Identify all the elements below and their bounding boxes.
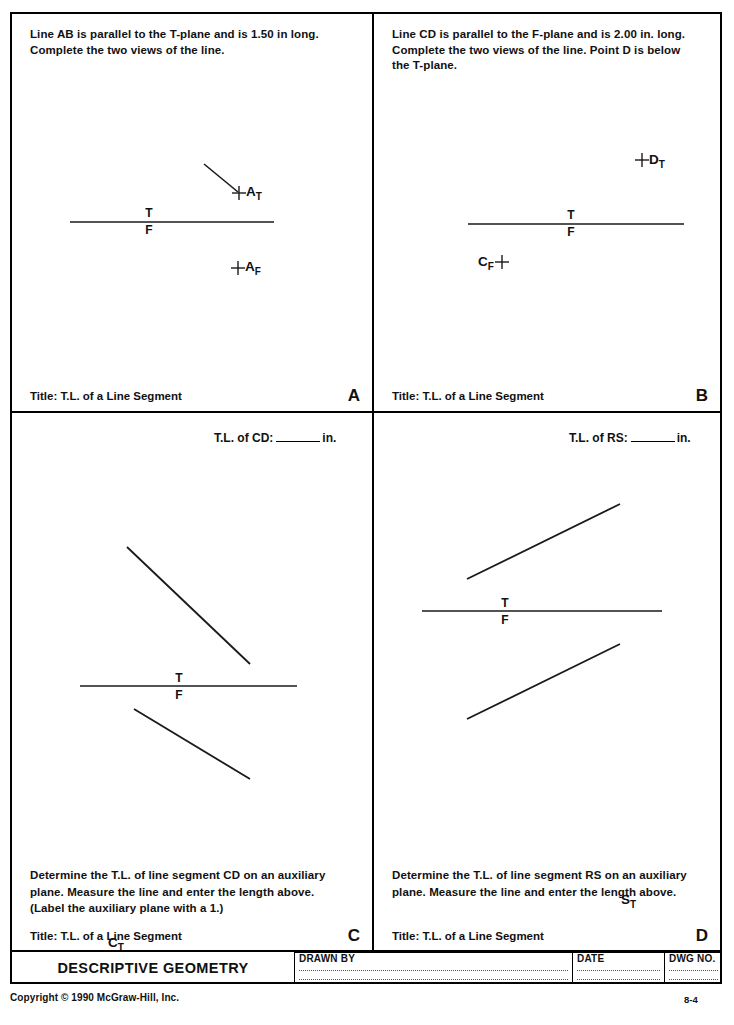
panel-d-letter: D [696, 926, 708, 946]
fold-label-t: T [172, 672, 186, 684]
date-label: DATE [577, 953, 604, 964]
fold-label-f: F [142, 224, 156, 236]
title-block-date-cell[interactable]: DATE [572, 952, 664, 984]
line-rs-front-view [467, 644, 620, 719]
dwg-no-rule-2 [669, 979, 718, 980]
dwg-no-rule-1 [669, 970, 718, 971]
panel-a-title-strip: Title: T.L. of a Line Segment A [12, 386, 374, 412]
dwg-no-label: DWG NO. [669, 953, 715, 964]
point-label-af: AF [245, 260, 261, 277]
title-block: DESCRIPTIVE GEOMETRY DRAWN BY DATE DWG N… [12, 952, 722, 984]
drawn-by-label: DRAWN BY [299, 953, 355, 964]
title-block-drawn-by-cell[interactable]: DRAWN BY [294, 952, 572, 984]
fold-label-f: F [498, 614, 512, 626]
panel-c-answer-suffix: in. [322, 431, 336, 445]
panel-b-title-strip: Title: T.L. of a Line Segment B [374, 386, 722, 412]
drawing-sheet: Line AB is parallel to the T-plane and i… [10, 12, 722, 984]
panel-b-title: Title: T.L. of a Line Segment [392, 390, 544, 402]
point-label-cf: CF [478, 255, 494, 272]
panel-d-title: Title: T.L. of a Line Segment [392, 930, 544, 942]
title-block-dwg-no-cell[interactable]: DWG NO. [664, 952, 722, 984]
panel-d: T.L. of RS: in. T F RT ST RF SF Determin… [374, 412, 722, 952]
panel-a-title: Title: T.L. of a Line Segment [30, 390, 182, 402]
fold-label-f: F [564, 226, 578, 238]
fold-label-t: T [142, 207, 156, 219]
point-label-dt: DT [649, 153, 665, 170]
line-cd-front-view [134, 709, 250, 779]
page-number: 8-4 [684, 994, 698, 1005]
panel-a-prompt: Line AB is parallel to the T-plane and i… [30, 27, 360, 58]
panel-c-answer-prefix: T.L. of CD: [214, 431, 273, 445]
drawn-by-rule-2 [299, 979, 568, 980]
panel-divider-vertical-bottom [372, 412, 374, 952]
panel-a-letter: A [348, 386, 360, 406]
panel-b-letter: B [696, 386, 708, 406]
line-ab-top-view [204, 164, 238, 192]
date-rule-1 [577, 970, 660, 971]
panel-c: T.L. of CD: in. T F CT DT CF DF Determin… [12, 412, 374, 952]
line-rs-top-view [467, 504, 620, 579]
date-rule-2 [577, 979, 660, 980]
title-block-sheet-name: DESCRIPTIVE GEOMETRY [12, 952, 294, 984]
panel-c-answer-row: T.L. of CD: in. [214, 430, 336, 445]
fold-label-f: F [172, 689, 186, 701]
panel-divider-horizontal [12, 411, 722, 413]
panel-c-instruction: Determine the T.L. of line segment CD on… [30, 867, 360, 917]
panel-a-drawing [12, 14, 374, 412]
panel-b: Line CD is parallel to the F-plane and i… [374, 14, 722, 412]
panel-d-instruction: Determine the T.L. of line segment RS on… [392, 867, 712, 900]
panel-c-title: Title: T.L. of a Line Segment [30, 930, 182, 942]
panel-b-drawing [374, 14, 722, 412]
panel-d-answer-prefix: T.L. of RS: [569, 431, 628, 445]
point-label-at: AT [246, 185, 262, 202]
fold-label-t: T [498, 597, 512, 609]
panel-d-answer-suffix: in. [677, 431, 691, 445]
panel-a: Line AB is parallel to the T-plane and i… [12, 14, 374, 412]
drawn-by-rule-1 [299, 970, 568, 971]
panel-d-title-strip: Title: T.L. of a Line Segment D [374, 926, 722, 952]
line-cd-top-view [127, 547, 250, 664]
panel-c-letter: C [348, 926, 360, 946]
panel-b-prompt: Line CD is parallel to the F-plane and i… [392, 27, 712, 74]
fold-label-t: T [564, 209, 578, 221]
panel-d-answer-blank[interactable] [631, 430, 675, 442]
panel-divider-vertical-top [372, 14, 374, 412]
panel-d-answer-row: T.L. of RS: in. [569, 430, 691, 445]
document-title: DESCRIPTIVE GEOMETRY [57, 960, 248, 976]
panel-c-title-strip: Title: T.L. of a Line Segment C [12, 926, 374, 952]
copyright-notice: Copyright © 1990 McGraw-Hill, Inc. [10, 992, 179, 1003]
panel-c-answer-blank[interactable] [276, 430, 320, 442]
